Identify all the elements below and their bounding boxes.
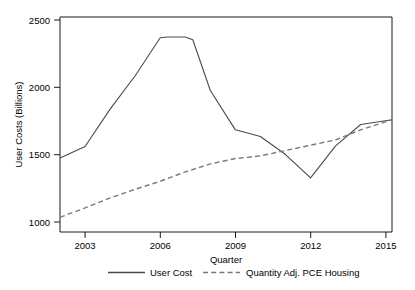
x-tick-label-2012: 2012 <box>300 240 321 251</box>
x-tick-label-2015: 2015 <box>375 240 396 251</box>
y-tick-label-2500: 2500 <box>29 15 50 26</box>
x-tick-label-2009: 2009 <box>225 240 246 251</box>
legend-label-user-cost: User Cost <box>150 267 193 278</box>
x-tick-label-2003: 2003 <box>75 240 96 251</box>
legend-label-quantity-adj-pce-housing: Quantity Adj. PCE Housing <box>246 267 360 278</box>
line-chart-svg: 2500 2000 1500 1000 2003 2006 2009 2012 … <box>0 0 415 290</box>
x-axis-title: Quarter <box>210 254 242 265</box>
chart-figure: 2500 2000 1500 1000 2003 2006 2009 2012 … <box>0 0 415 290</box>
x-tick-label-2006: 2006 <box>150 240 171 251</box>
chart-background <box>0 0 415 290</box>
y-tick-label-2000: 2000 <box>29 82 50 93</box>
y-axis-title: User Costs (Billions) <box>13 81 24 167</box>
y-tick-label-1000: 1000 <box>29 217 50 228</box>
y-tick-label-1500: 1500 <box>29 149 50 160</box>
